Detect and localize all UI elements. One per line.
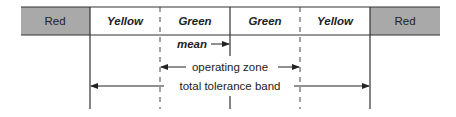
zone-label-yellow-left: Yellow [107, 15, 144, 27]
zone-label-red-right: Red [394, 15, 415, 27]
zone-label-red-left: Red [44, 15, 65, 27]
zone-label-yellow-right: Yellow [317, 15, 354, 27]
zone-label-green-right: Green [248, 15, 281, 27]
tolerance-zone-diagram: Red Yellow Green Green Yellow Red mean o… [0, 0, 456, 117]
zone-label-green-left: Green [178, 15, 211, 27]
operating-zone-label: operating zone [192, 61, 268, 73]
mean-label: mean [177, 38, 207, 50]
tolerance-band-label: total tolerance band [179, 80, 280, 92]
